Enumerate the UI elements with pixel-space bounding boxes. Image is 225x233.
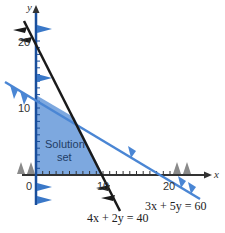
solution-set-label-line1: Solution	[45, 138, 85, 150]
x-tick-label-20: 20	[163, 180, 175, 192]
x-axis-arrow-icon	[204, 172, 212, 179]
y-tick-label-20: 20	[18, 36, 30, 48]
solution-set-label-line2: set	[57, 151, 72, 163]
x-axis-label: x	[213, 168, 219, 180]
y-axis-arrow-icon	[33, 5, 40, 13]
equation-label-blue: 3x + 5y = 60	[145, 199, 207, 213]
linear-programming-graph: y x 20 10 0 10 20 Solution set 3x + 5y =…	[0, 0, 225, 233]
y-axis-label: y	[26, 1, 32, 13]
y-tick-label-10: 10	[18, 102, 30, 114]
origin-label: 0	[26, 180, 32, 192]
equation-label-black: 4x + 2y = 40	[87, 211, 149, 225]
x-tick-label-10: 10	[97, 180, 109, 192]
